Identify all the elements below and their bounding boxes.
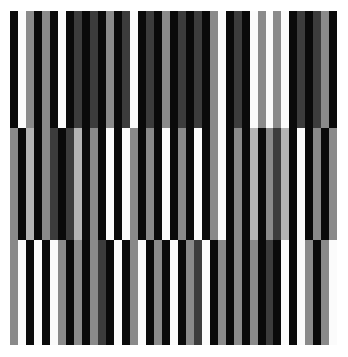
stripe	[242, 11, 250, 128]
stripe	[138, 128, 146, 240]
stripe	[82, 240, 90, 345]
stripe	[194, 11, 202, 128]
stripe	[10, 11, 18, 128]
stripe	[289, 128, 297, 240]
stripe	[50, 240, 58, 345]
stripe	[329, 128, 337, 240]
stripe	[18, 11, 26, 128]
stripe	[162, 240, 170, 345]
stripe	[234, 11, 242, 128]
stripe	[242, 128, 250, 240]
stripe	[90, 128, 98, 240]
stripe	[98, 240, 106, 345]
stripe	[170, 240, 178, 345]
stripe	[194, 240, 202, 345]
striped-composition	[10, 11, 338, 345]
stripe	[297, 11, 305, 128]
stripe	[114, 128, 122, 240]
stripe	[58, 11, 66, 128]
stripe	[273, 11, 281, 128]
stripe	[266, 128, 274, 240]
stripe	[98, 128, 106, 240]
stripe	[74, 240, 82, 345]
stripe	[202, 128, 210, 240]
stripe	[74, 128, 82, 240]
stripe	[130, 128, 138, 240]
stripe	[202, 240, 210, 345]
stripe	[281, 11, 289, 128]
stripe	[178, 128, 186, 240]
stripe	[106, 240, 114, 345]
stripe	[154, 128, 162, 240]
stripe	[242, 240, 250, 345]
stripe	[266, 240, 274, 345]
stripe	[258, 128, 266, 240]
stripe	[313, 128, 321, 240]
stripe	[122, 240, 130, 345]
stripe	[210, 128, 218, 240]
stripe	[194, 128, 202, 240]
stripe	[313, 240, 321, 345]
stripe	[226, 240, 234, 345]
stripe	[114, 11, 122, 128]
stripe	[34, 240, 42, 345]
stripe	[98, 11, 106, 128]
stripe	[250, 128, 258, 240]
stripe	[26, 240, 34, 345]
stripe	[258, 240, 266, 345]
stripe	[305, 128, 313, 240]
stripe	[329, 240, 337, 345]
stripe	[82, 11, 90, 128]
stripe	[297, 240, 305, 345]
stripe	[26, 11, 34, 128]
bottom-band	[10, 240, 338, 345]
stripe	[186, 11, 194, 128]
stripe	[170, 128, 178, 240]
stripe	[234, 240, 242, 345]
stripe	[58, 128, 66, 240]
stripe	[178, 11, 186, 128]
stripe	[218, 11, 226, 128]
middle-band	[10, 128, 338, 240]
stripe	[18, 128, 26, 240]
stripe	[154, 240, 162, 345]
stripe	[10, 240, 18, 345]
stripe	[305, 11, 313, 128]
stripe	[130, 240, 138, 345]
stripe	[273, 240, 281, 345]
stripe	[10, 128, 18, 240]
stripe	[234, 128, 242, 240]
stripe	[34, 128, 42, 240]
stripe	[313, 11, 321, 128]
stripe	[106, 128, 114, 240]
stripe	[50, 128, 58, 240]
stripe	[34, 11, 42, 128]
stripe	[42, 11, 50, 128]
stripe	[258, 11, 266, 128]
stripe	[297, 128, 305, 240]
stripe	[273, 128, 281, 240]
stripe	[218, 240, 226, 345]
stripe	[146, 240, 154, 345]
stripe	[146, 11, 154, 128]
stripe	[42, 128, 50, 240]
stripe	[289, 11, 297, 128]
stripe	[226, 128, 234, 240]
stripe	[170, 11, 178, 128]
stripe	[50, 11, 58, 128]
stripe	[154, 11, 162, 128]
stripe	[122, 11, 130, 128]
top-band	[10, 11, 338, 128]
stripe	[210, 11, 218, 128]
stripe	[305, 240, 313, 345]
stripe	[146, 128, 154, 240]
stripe	[66, 240, 74, 345]
stripe	[18, 240, 26, 345]
stripe	[138, 11, 146, 128]
stripe	[66, 128, 74, 240]
stripe	[329, 11, 337, 128]
stripe	[82, 128, 90, 240]
stripe	[266, 11, 274, 128]
stripe	[162, 11, 170, 128]
stripe	[186, 128, 194, 240]
